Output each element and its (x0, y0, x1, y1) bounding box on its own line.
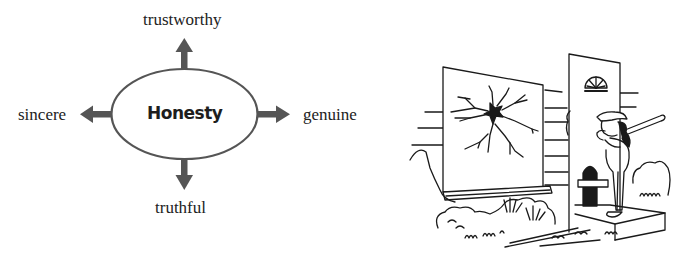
word-web-diagram (0, 0, 682, 263)
label-bottom-truthful: truthful (155, 198, 206, 218)
center-word-honesty: Honesty (147, 103, 222, 123)
label-right-genuine: genuine (303, 105, 357, 125)
arrow-right-icon (257, 106, 290, 124)
arrow-up-icon (176, 38, 194, 70)
label-top-trustworthy: trustworthy (143, 10, 221, 30)
arrow-down-icon (176, 159, 194, 190)
arrow-left-icon (80, 106, 112, 124)
label-left-sincere: sincere (18, 105, 66, 125)
cartoon-illustration (410, 54, 670, 247)
broken-window (443, 67, 543, 192)
